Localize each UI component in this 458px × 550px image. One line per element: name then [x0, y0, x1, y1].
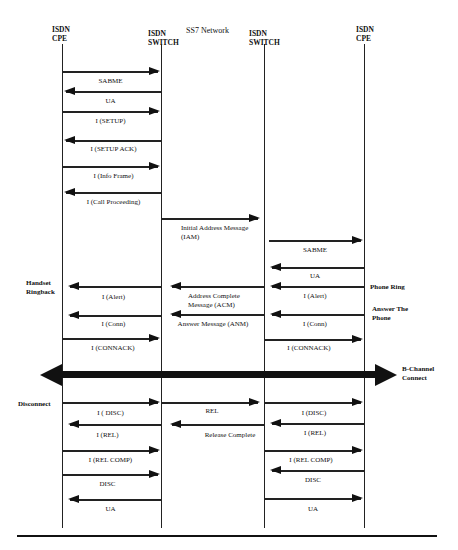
entity-label-line1: ISDN	[148, 29, 179, 38]
msg-label: I (Call Proceeding)	[66, 198, 161, 206]
entity-label-line1: ISDN	[356, 25, 374, 34]
msg-label: I (CONNACK)	[260, 344, 358, 352]
note-line: Phone	[372, 314, 408, 323]
lifeline-switch-left	[161, 44, 162, 528]
arrowhead-icon	[249, 214, 260, 222]
msg-label: UA	[264, 505, 362, 513]
msg-anm	[172, 314, 264, 316]
msg-connack-right	[265, 339, 361, 341]
msg-rel	[162, 402, 258, 404]
note-line: Answer The	[372, 305, 408, 314]
arrowhead-icon	[68, 282, 79, 290]
msg-conn-left	[70, 315, 161, 317]
arrowhead-left-icon	[40, 364, 62, 386]
arrowhead-icon	[270, 282, 281, 290]
msg-label: Initial Address Message (IAM)	[181, 224, 251, 242]
msg-ua-right	[272, 267, 364, 269]
msg-alert-right	[272, 286, 364, 288]
msg-label: I (Conn)	[266, 320, 364, 328]
msg-rel-comp-left	[63, 450, 158, 452]
msg-info-frame	[63, 166, 158, 168]
msg-label: I (Conn)	[66, 320, 161, 328]
msg-acm	[172, 286, 264, 288]
note-b-channel-connect: B-Channel Connect	[402, 365, 434, 383]
msg-disc-right	[265, 402, 361, 404]
arrowhead-icon	[149, 67, 160, 75]
note-line: Connect	[402, 374, 434, 383]
arrowhead-icon	[64, 136, 75, 144]
entity-cpe-left: ISDN CPE	[52, 25, 70, 43]
msg-ua-left	[66, 91, 161, 93]
arrowhead-icon	[68, 420, 79, 428]
entity-label-line2: CPE	[52, 34, 70, 43]
msg-label: Release Complete	[180, 431, 280, 439]
lifeline-cpe-right	[364, 44, 365, 528]
msg-label: I (REL COMP)	[63, 456, 158, 464]
msg-label: DISC	[264, 476, 362, 484]
msg-ua-l2-left	[70, 499, 161, 501]
arrowhead-icon	[270, 263, 281, 271]
msg-ua-l2-right	[265, 498, 361, 500]
msg-label: I (Info Frame)	[66, 172, 161, 180]
note-phone-ring: Phone Ring	[370, 283, 405, 292]
msg-alert-left	[70, 286, 161, 288]
arrowhead-icon	[352, 446, 363, 454]
entity-label-line1: ISDN	[249, 29, 280, 38]
msg-label: I (REL)	[266, 429, 364, 437]
msg-label: I (REL COMP)	[262, 456, 360, 464]
msg-label: I (SETUP ACK)	[66, 145, 161, 153]
note-line: Handset	[26, 279, 55, 288]
msg-rel-right	[272, 423, 364, 425]
note-answer-the-phone: Answer The Phone	[372, 305, 408, 323]
msg-label: I (SETUP)	[63, 117, 158, 125]
entity-label-line1: ISDN	[52, 25, 70, 34]
ss7-network-title: SS7 Network	[186, 26, 229, 35]
arrowhead-icon	[68, 495, 79, 503]
entity-cpe-right: ISDN CPE	[356, 25, 374, 43]
arrowhead-icon	[68, 311, 79, 319]
bottom-rule	[17, 535, 437, 537]
msg-rel-comp-right	[265, 450, 361, 452]
arrowhead-icon	[149, 107, 160, 115]
msg-setup-ack	[66, 140, 161, 142]
msg-label: Address Complete Message (ACM)	[188, 292, 258, 310]
note-line: Ringback	[26, 288, 55, 297]
arrowhead-icon	[149, 446, 160, 454]
msg-disc-l2-left	[63, 474, 158, 476]
note-disconnect: Disconnect	[18, 400, 51, 409]
msg-label: UA	[63, 97, 158, 105]
msg-disc-left	[63, 402, 158, 404]
arrowhead-icon	[64, 188, 75, 196]
msg-rel-left	[70, 424, 161, 426]
arrowhead-icon	[352, 335, 363, 343]
msg-call-proceeding	[66, 192, 161, 194]
b-channel-arrow	[62, 371, 375, 378]
arrowhead-icon	[170, 282, 181, 290]
arrowhead-icon	[352, 236, 363, 244]
msg-label: I (DISC)	[265, 409, 363, 417]
arrowhead-icon	[270, 466, 281, 474]
arrowhead-right-icon	[375, 364, 397, 386]
note-handset-ringback: Handset Ringback	[26, 279, 55, 297]
msg-label: SABME	[63, 77, 158, 85]
note-line: B-Channel	[402, 365, 434, 374]
msg-disc-l2-right	[272, 470, 364, 472]
msg-label: I (REL)	[60, 431, 155, 439]
arrowhead-icon	[352, 494, 363, 502]
msg-sabme-right	[269, 240, 361, 242]
arrowhead-icon	[149, 398, 160, 406]
msg-label: UA	[266, 272, 364, 280]
msg-label: REL	[162, 407, 262, 415]
msg-sabme-left	[63, 71, 158, 73]
msg-label: SABME	[266, 246, 364, 254]
arrowhead-icon	[270, 419, 281, 427]
arrowhead-icon	[64, 87, 75, 95]
msg-label: Answer Message (ANM)	[162, 320, 264, 328]
msg-label: I (Alert)	[266, 292, 364, 300]
entity-switch-left: ISDN SWITCH	[148, 29, 179, 47]
arrowhead-icon	[149, 470, 160, 478]
msg-setup	[63, 111, 158, 113]
arrowhead-icon	[170, 420, 181, 428]
entity-label-line2: CPE	[356, 34, 374, 43]
arrowhead-icon	[352, 398, 363, 406]
